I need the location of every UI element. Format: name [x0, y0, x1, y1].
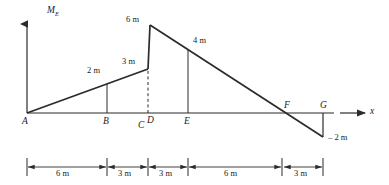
- diagram-canvas: [0, 0, 389, 185]
- dimension-label-5: 3 m: [294, 169, 307, 178]
- y-axis-label-subscript: E: [55, 10, 59, 17]
- value-label-3m-at-d: 3 m: [122, 57, 135, 66]
- dimension-label-4: 6 m: [224, 169, 237, 178]
- dimension-label-1: 6 m: [56, 169, 69, 178]
- y-axis-label-main: M: [47, 5, 55, 15]
- point-label-g: G: [320, 101, 327, 111]
- point-label-b: B: [103, 117, 109, 127]
- value-label-4m-at-e: 4 m: [193, 36, 206, 45]
- point-label-e: E: [184, 117, 190, 127]
- moment-curve-left: [27, 69, 148, 113]
- dimension-label-2: 3 m: [118, 169, 131, 178]
- moment-curve-right: [150, 25, 323, 137]
- value-label-2m-at-b: 2 m: [87, 66, 100, 75]
- value-label-minus-2m-at-g: – 2 m: [328, 133, 347, 142]
- y-axis-label: ME: [47, 6, 59, 17]
- point-label-f: F: [284, 101, 290, 111]
- point-label-c: C: [138, 121, 144, 131]
- moment-curve-jump: [148, 25, 150, 69]
- point-label-d: D: [147, 116, 154, 126]
- value-label-6m-peak: 6 m: [126, 15, 139, 24]
- dimension-label-3: 3 m: [159, 169, 172, 178]
- bending-moment-diagram-figure: ME x 2 m 3 m 6 m 4 m – 2 m A B C D E F G…: [0, 0, 389, 185]
- x-axis-label: x: [370, 107, 374, 117]
- point-label-a: A: [22, 117, 28, 127]
